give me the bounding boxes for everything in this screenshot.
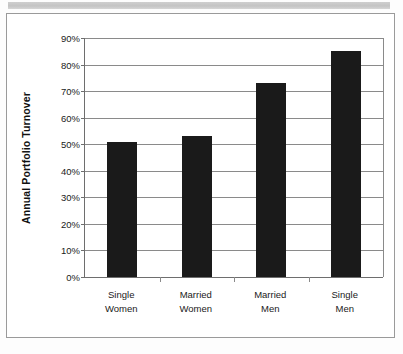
x-axis-category-label: MarriedWomen — [159, 288, 233, 316]
bar — [256, 83, 286, 277]
y-axis-tick-label: 60% — [34, 112, 80, 123]
x-axis-tick-mark — [234, 277, 235, 282]
scan-artifact-band — [8, 2, 390, 9]
y-axis-tick-label: 0% — [34, 272, 80, 283]
x-axis-category-label-line2: Women — [84, 302, 158, 316]
y-axis-tick-label: 30% — [34, 192, 80, 203]
y-axis-tick-mark — [81, 250, 85, 251]
y-axis-tick-mark — [81, 171, 85, 172]
y-axis-tick-labels: 0%10%20%30%40%50%60%70%80%90% — [30, 38, 80, 277]
x-axis-category-label: SingleMen — [308, 288, 382, 316]
plot-right-edge — [383, 38, 384, 277]
gridline — [85, 38, 383, 39]
y-axis-tick-mark — [81, 118, 85, 119]
y-axis-tick-label: 80% — [34, 59, 80, 70]
y-axis-tick-mark — [81, 144, 85, 145]
x-axis-category-label: SingleWomen — [84, 288, 158, 316]
x-axis-category-label-line1: Single — [108, 289, 134, 300]
x-axis-category-label: MarriedMen — [233, 288, 307, 316]
bar — [182, 136, 212, 277]
x-axis-category-label-line2: Men — [233, 302, 307, 316]
y-axis-tick-mark — [81, 38, 85, 39]
y-axis-tick-label: 20% — [34, 218, 80, 229]
x-axis-category-label-line1: Married — [254, 289, 286, 300]
x-axis-category-labels: SingleWomenMarriedWomenMarriedMenSingleM… — [84, 288, 383, 328]
y-axis-tick-label: 70% — [34, 86, 80, 97]
y-axis-tick-label: 50% — [34, 139, 80, 150]
x-axis-category-label-line1: Single — [332, 289, 358, 300]
x-axis-category-label-line2: Women — [159, 302, 233, 316]
y-axis-tick-label: 40% — [34, 165, 80, 176]
y-axis-tick-mark — [81, 65, 85, 66]
y-axis-tick-mark — [81, 91, 85, 92]
x-axis-category-label-line2: Men — [308, 302, 382, 316]
y-axis-tick-mark — [81, 224, 85, 225]
x-axis-category-label-line1: Married — [180, 289, 212, 300]
plot-area — [84, 38, 383, 278]
x-axis-tick-mark — [309, 277, 310, 282]
bar — [107, 142, 137, 277]
y-axis-tick-mark — [81, 197, 85, 198]
y-axis-tick-mark — [81, 277, 85, 278]
bar — [331, 51, 361, 277]
y-axis-tick-label: 10% — [34, 245, 80, 256]
x-axis-tick-mark — [160, 277, 161, 282]
y-axis-tick-label: 90% — [34, 33, 80, 44]
